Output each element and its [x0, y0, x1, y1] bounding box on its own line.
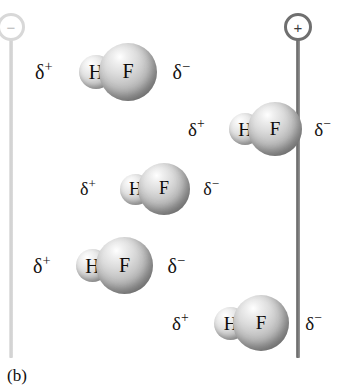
- hf-molecule: δ+HFδ−: [80, 161, 219, 217]
- plus-icon: +: [294, 20, 303, 35]
- delta-plus-superscript: +: [88, 176, 95, 191]
- delta-plus-label: δ+: [33, 256, 51, 276]
- delta-minus-label: δ−: [314, 120, 331, 139]
- fluorine-atom-sphere: F: [96, 237, 153, 294]
- delta-plus-label: δ+: [172, 314, 189, 333]
- fluorine-atom-sphere: F: [248, 102, 302, 156]
- negative-electrode-terminal: −: [0, 13, 25, 41]
- fluorine-atom-sphere: F: [138, 163, 190, 215]
- hf-molecule: δ+HFδ−: [33, 235, 185, 296]
- delta-minus-label: δ−: [167, 256, 185, 276]
- fluorine-atom-label: F: [138, 162, 190, 214]
- hf-dipole-alignment-figure: − + δ+HFδ−δ+HFδ−δ+HFδ−δ+HFδ−δ+HFδ− (b): [0, 0, 340, 389]
- delta-minus-superscript: −: [212, 176, 219, 191]
- fluorine-atom-sphere: F: [233, 295, 289, 351]
- fluorine-atom-sphere: F: [99, 43, 157, 101]
- delta-minus-superscript: −: [177, 252, 185, 268]
- fluorine-atom-label: F: [99, 42, 157, 100]
- delta-minus-superscript: −: [182, 58, 190, 74]
- hf-molecule: δ+HFδ−: [35, 41, 190, 103]
- delta-plus-superscript: +: [42, 252, 50, 268]
- delta-plus-label: δ+: [35, 62, 53, 82]
- hf-molecule: δ+HFδ−: [172, 293, 322, 353]
- delta-minus-label: δ−: [305, 314, 322, 333]
- delta-plus-superscript: +: [181, 310, 189, 325]
- delta-minus-label: δ−: [203, 180, 219, 198]
- delta-minus-label: δ−: [172, 62, 190, 82]
- delta-minus-superscript: −: [323, 116, 331, 131]
- positive-electrode-terminal: +: [284, 13, 312, 41]
- fluorine-atom-label: F: [248, 101, 302, 155]
- fluorine-atom-label: F: [96, 236, 153, 293]
- figure-caption-label: (b): [7, 366, 27, 386]
- delta-plus-label: δ+: [80, 180, 96, 198]
- delta-plus-superscript: +: [44, 58, 52, 74]
- delta-plus-superscript: +: [197, 116, 205, 131]
- hf-molecule: δ+HFδ−: [188, 100, 331, 158]
- delta-plus-label: δ+: [188, 120, 205, 139]
- fluorine-atom-label: F: [233, 294, 289, 350]
- negative-electrode-rod: [9, 39, 13, 358]
- delta-minus-superscript: −: [314, 310, 322, 325]
- minus-icon: −: [7, 20, 16, 35]
